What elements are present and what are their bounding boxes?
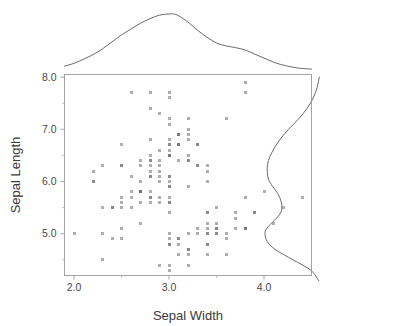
scatter-point	[225, 237, 228, 240]
scatter-point	[301, 196, 304, 199]
y-axis-tick-labels: 5.06.07.08.0	[42, 71, 57, 240]
scatter-point	[101, 258, 104, 261]
scatter-point	[177, 243, 180, 246]
scatter-point	[215, 232, 218, 235]
scatter-point	[187, 264, 190, 267]
scatter-point	[158, 164, 161, 167]
scatter-point	[234, 227, 237, 230]
scatter-point	[130, 91, 133, 94]
scatter-point	[206, 232, 209, 235]
scatter-point	[92, 170, 95, 173]
scatter-point	[168, 243, 171, 246]
scatter-point	[101, 164, 104, 167]
scatter-point	[168, 264, 171, 267]
scatter-point	[253, 211, 256, 214]
scatter-point	[168, 269, 171, 272]
scatter-point	[187, 159, 190, 162]
top-marginal-density	[65, 14, 312, 69]
scatter-point	[111, 206, 114, 209]
x-axis-ticks	[74, 276, 264, 280]
scatter-point	[168, 91, 171, 94]
scatter-point	[139, 201, 142, 204]
scatter-point	[177, 159, 180, 162]
scatter-point	[149, 201, 152, 204]
scatter-point	[120, 196, 123, 199]
scatter-point	[111, 237, 114, 240]
y-tick-label: 6.0	[42, 175, 57, 187]
scatter-point	[177, 253, 180, 256]
scatter-point	[149, 196, 152, 199]
scatter-point	[149, 107, 152, 110]
scatter-point	[168, 211, 171, 214]
scatter-point	[158, 175, 161, 178]
scatter-point	[244, 81, 247, 84]
scatter-point	[149, 159, 152, 162]
x-tick-label: 3.0	[162, 281, 177, 293]
scatter-point	[149, 91, 152, 94]
scatter-point	[101, 232, 104, 235]
scatter-point	[168, 143, 171, 146]
scatter-point	[168, 232, 171, 235]
scatter-point	[196, 143, 199, 146]
scatter-point	[215, 222, 218, 225]
scatter-point	[215, 206, 218, 209]
scatter-point	[168, 149, 171, 152]
scatter-point	[130, 190, 133, 193]
scatter-point	[272, 222, 275, 225]
scatter-point	[206, 211, 209, 214]
scatter-point	[149, 154, 152, 157]
scatter-point	[168, 96, 171, 99]
scatter-point	[196, 232, 199, 235]
scatter-point	[158, 264, 161, 267]
scatter-point	[282, 206, 285, 209]
y-axis-title: Sepal Length	[8, 137, 23, 214]
scatter-point	[187, 128, 190, 131]
scatter-point	[187, 253, 190, 256]
scatter-point	[206, 253, 209, 256]
scatter-point	[234, 217, 237, 220]
scatter-point	[187, 133, 190, 136]
scatter-point	[92, 180, 95, 183]
scatter-point	[196, 227, 199, 230]
scatter-point	[187, 248, 190, 251]
x-tick-label: 4.0	[257, 281, 272, 293]
scatter-point	[168, 123, 171, 126]
scatter-point	[158, 159, 161, 162]
scatter-point	[139, 159, 142, 162]
scatter-point	[168, 237, 171, 240]
scatter-point	[120, 237, 123, 240]
scatter-point	[187, 232, 190, 235]
scatter-point	[225, 253, 228, 256]
scatter-point	[206, 227, 209, 230]
scatter-point	[244, 227, 247, 230]
scatter-point	[158, 170, 161, 173]
scatter-point	[168, 196, 171, 199]
plot-frame	[65, 75, 312, 276]
scatter-point	[168, 180, 171, 183]
scatter-point	[120, 201, 123, 204]
scatter-point	[244, 91, 247, 94]
scatter-point	[206, 170, 209, 173]
scatter-point	[168, 117, 171, 120]
scatter-point	[139, 190, 142, 193]
scatter-point	[187, 117, 190, 120]
scatter-point	[149, 138, 152, 141]
scatter-point	[120, 227, 123, 230]
scatter-point	[158, 149, 161, 152]
y-tick-label: 8.0	[42, 71, 57, 83]
scatter-point	[168, 185, 171, 188]
scatter-point	[206, 180, 209, 183]
scatter-point	[149, 190, 152, 193]
scatter-point	[168, 201, 171, 204]
scatter-point	[225, 117, 228, 120]
scatter-point	[225, 232, 228, 235]
scatter-point	[120, 164, 123, 167]
scatter-point	[187, 154, 190, 157]
scatter-point	[130, 196, 133, 199]
scatter-point	[149, 170, 152, 173]
plot-border	[65, 75, 312, 276]
x-tick-label: 2.0	[67, 281, 82, 293]
scatter-point	[234, 211, 237, 214]
scatter-point	[168, 138, 171, 141]
scatter-point	[168, 154, 171, 157]
